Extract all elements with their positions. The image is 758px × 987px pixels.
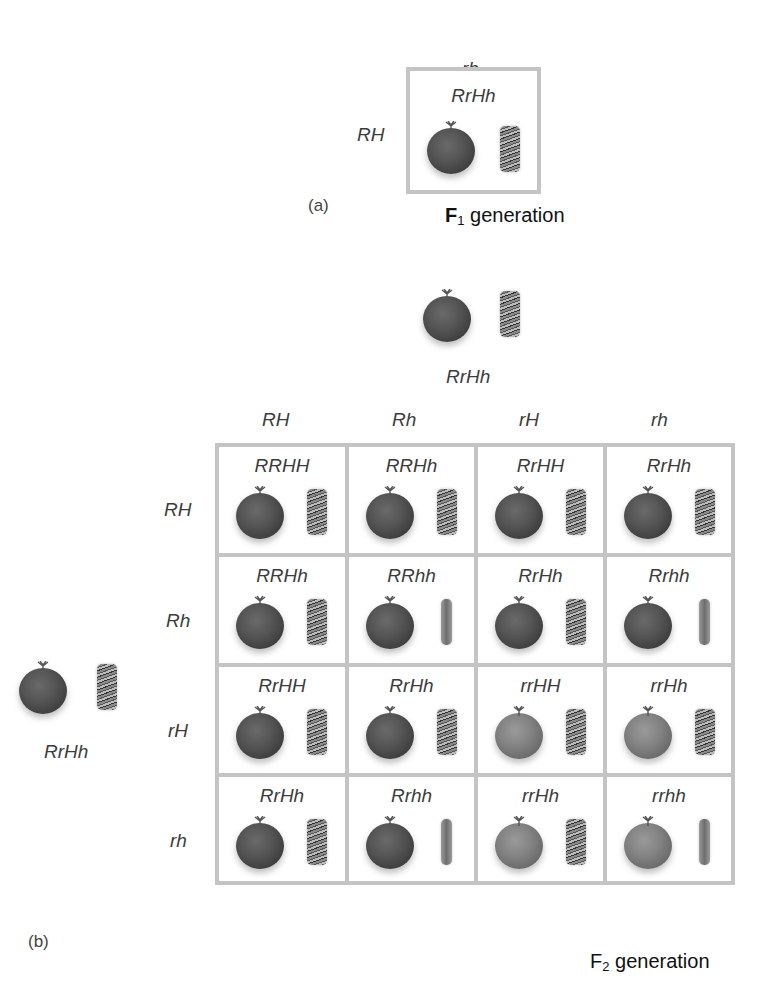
cell-genotype: RrHH [478, 455, 603, 477]
punnett-cell: rrHh [607, 667, 731, 773]
hairy-stem-icon [307, 819, 327, 865]
tomato-fruit-icon [423, 296, 471, 342]
cell-genotype: RRhh [349, 565, 474, 587]
cell-genotype: rrHh [607, 675, 731, 697]
stem-sprig-icon [440, 289, 454, 299]
stem-sprig-icon [253, 596, 267, 606]
stem-sprig-icon [641, 596, 655, 606]
hairy-stem-icon [97, 664, 117, 710]
cell-genotype: RrHh [607, 455, 731, 477]
punnett-cell: rrHH [478, 667, 603, 773]
red-tomato-icon [236, 823, 284, 869]
stem-sprig-icon [512, 596, 526, 606]
row-gamete: rh [170, 830, 187, 852]
cell-genotype: RrHH [219, 675, 345, 697]
cell-genotype: RrHh [349, 675, 474, 697]
red-tomato-icon [366, 493, 414, 539]
yellow-tomato-icon [495, 823, 543, 869]
hairy-stem-icon [307, 489, 327, 535]
cell-genotype: RrHh [410, 85, 537, 107]
punnett-cell: Rrhh [607, 557, 731, 663]
column-gamete: rH [519, 409, 539, 431]
f2-generation-label: F2 generation [590, 950, 710, 974]
cell-genotype: rrHh [478, 785, 603, 807]
cell-genotype: RrHh [219, 785, 345, 807]
stem-sprig-icon [641, 706, 655, 716]
cell-genotype: rrhh [607, 785, 731, 807]
punnett-cell: rrhh [607, 777, 731, 883]
punnett-cell: RrHh [478, 557, 603, 663]
punnett-cell: RrHH [219, 667, 345, 773]
punnett-cell: Rrhh [349, 777, 474, 883]
red-tomato-icon [366, 823, 414, 869]
stem-sprig-icon [444, 121, 458, 131]
punnett-cell: RrHh [349, 667, 474, 773]
red-tomato-icon [366, 603, 414, 649]
hairy-stem-icon [307, 709, 327, 755]
f2-punnett-grid: RRHHRRHhRrHHRrHhRRHhRRhhRrHhRrhhRrHHRrHh… [215, 443, 735, 885]
cell-genotype: Rrhh [349, 785, 474, 807]
f2-prefix: F [590, 950, 602, 972]
yellow-tomato-icon [624, 713, 672, 759]
hairy-stem-icon [566, 819, 586, 865]
column-gamete: RH [262, 409, 289, 431]
hairy-stem-icon [566, 599, 586, 645]
punnett-cell: RrHH [478, 447, 603, 553]
red-tomato-icon [495, 493, 543, 539]
top-parent-genotype: RrHh [446, 366, 490, 388]
smooth-stem-icon [699, 599, 710, 645]
hairy-stem-icon [437, 489, 457, 535]
red-tomato-icon [236, 493, 284, 539]
f1-suffix: generation [464, 204, 564, 226]
red-tomato-icon [624, 493, 672, 539]
punnett-cell: RRHH [219, 447, 345, 553]
stem-sprig-icon [512, 816, 526, 826]
red-tomato-icon [366, 713, 414, 759]
row-gamete: RH [164, 499, 191, 521]
tomato-fruit-icon [19, 668, 67, 714]
punnett-cell: rrHh [478, 777, 603, 883]
stem-sprig-icon [641, 486, 655, 496]
panel-a-letter: (a) [308, 196, 329, 216]
cell-genotype: RrHh [478, 565, 603, 587]
hairy-stem-icon [566, 489, 586, 535]
red-tomato-icon [624, 603, 672, 649]
punnett-cell: RRhh [349, 557, 474, 663]
left-parent-genotype: RrHh [44, 741, 88, 763]
f2-suffix: generation [609, 950, 709, 972]
hairy-stem-icon [437, 709, 457, 755]
stem-sprig-icon [512, 486, 526, 496]
column-gamete: Rh [392, 409, 416, 431]
stem-sprig-icon [253, 706, 267, 716]
stem-sprig-icon [512, 706, 526, 716]
smooth-stem-icon [699, 819, 710, 865]
stem-sprig-icon [641, 816, 655, 826]
hairy-stem-icon [566, 709, 586, 755]
punnett-cell: RrHh [219, 777, 345, 883]
row-gamete: rH [168, 720, 188, 742]
stem-sprig-icon [253, 486, 267, 496]
red-tomato-icon [495, 603, 543, 649]
cell-genotype: RRHH [219, 455, 345, 477]
column-gamete: rh [651, 409, 668, 431]
hairy-stem-icon [695, 489, 715, 535]
hairy-stem-icon [500, 291, 520, 337]
punnett-cell: RRHh [349, 447, 474, 553]
hairy-stem-icon [500, 126, 520, 172]
stem-sprig-icon [383, 596, 397, 606]
punnett-cell: RrHh [607, 447, 731, 553]
red-tomato-icon [236, 603, 284, 649]
row-gamete: Rh [166, 610, 190, 632]
f1-row-gamete: RH [357, 124, 384, 146]
smooth-stem-icon [441, 599, 452, 645]
cell-genotype: RRHh [219, 565, 345, 587]
cell-genotype: rrHH [478, 675, 603, 697]
hairy-stem-icon [307, 599, 327, 645]
f1-prefix: F [445, 204, 457, 226]
tomato-fruit-icon [427, 128, 475, 174]
hairy-stem-icon [695, 709, 715, 755]
smooth-stem-icon [441, 819, 452, 865]
f1-cell: RrHh [410, 71, 537, 190]
yellow-tomato-icon [624, 823, 672, 869]
stem-sprig-icon [383, 706, 397, 716]
